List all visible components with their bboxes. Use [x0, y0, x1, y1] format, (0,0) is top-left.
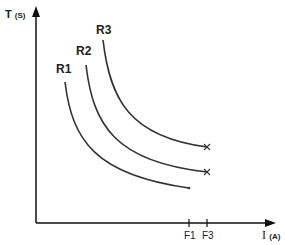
curve-label-r2: R2: [76, 45, 91, 57]
x-axis-label-unit: (A): [269, 232, 280, 241]
curve-label-r3: R3: [96, 24, 111, 36]
x-axis-label: I (A): [262, 229, 280, 241]
curve-r3: [103, 40, 207, 147]
y-axis-arrow-icon: [32, 6, 40, 17]
y-axis-label-main: T: [5, 8, 12, 20]
tick-label-f1: F1: [184, 231, 196, 241]
curve-r1: [65, 82, 189, 188]
x-axis-arrow-icon: [265, 219, 276, 227]
x-axis-label-main: I: [262, 228, 266, 242]
curve-r1-end-marker: [188, 187, 191, 190]
y-axis-label: T (S): [5, 9, 25, 20]
tick-label-f3: F3: [202, 231, 214, 241]
diagram-canvas: [0, 0, 285, 245]
curve-r2: [86, 65, 207, 172]
curve-label-r1: R1: [56, 63, 71, 75]
y-axis-label-unit: (S): [15, 11, 26, 20]
